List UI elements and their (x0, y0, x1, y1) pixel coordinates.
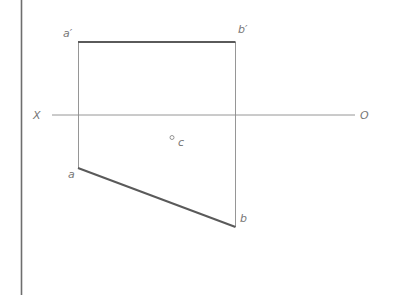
label-c: c (178, 136, 184, 149)
axis-label-x: X (32, 109, 41, 122)
label-a: a (68, 168, 75, 181)
label-a-prime: a′ (63, 27, 73, 40)
label-b-prime: b′ (238, 23, 248, 36)
top-view-line-ab (78, 168, 236, 227)
label-b: b (240, 212, 247, 225)
point-c-marker (170, 136, 174, 140)
axis-label-o: O (360, 109, 369, 122)
